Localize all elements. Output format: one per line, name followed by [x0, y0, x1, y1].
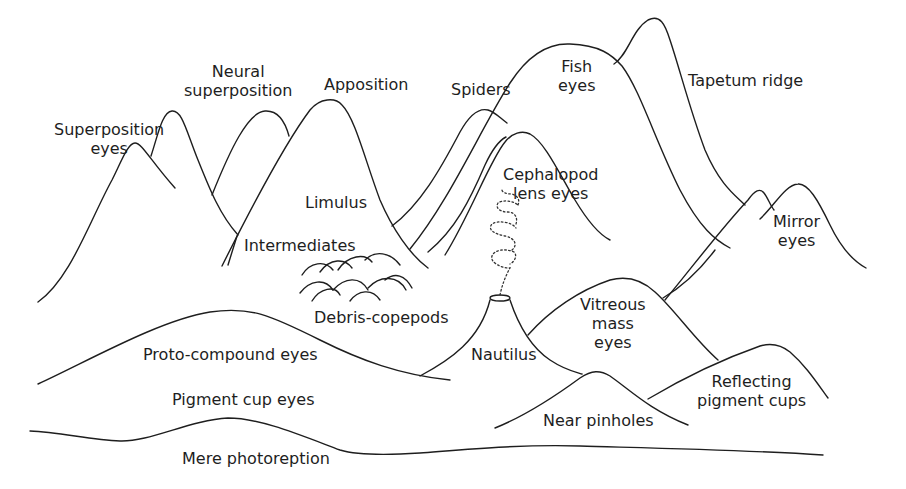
label-reflecting-pigment-cups: Reflecting pigment cups [697, 372, 806, 410]
ridge-neural-superposition [212, 111, 289, 195]
label-limulus: Limulus [305, 193, 367, 212]
ridge-mirror-small [665, 190, 774, 300]
label-proto-compound-eyes: Proto-compound eyes [143, 345, 318, 364]
debris-copepods-arcs [300, 254, 412, 301]
label-mere-photoreption: Mere photoreption [182, 449, 330, 468]
label-pigment-cup-eyes: Pigment cup eyes [172, 390, 315, 409]
ridge-superposition [38, 143, 175, 302]
label-apposition: Apposition [324, 75, 408, 94]
label-superposition-eyes: Superposition eyes [54, 120, 164, 158]
ridge-mirror-to-vitreous [663, 250, 715, 298]
label-mirror-eyes: Mirror eyes [773, 212, 820, 250]
label-intermediates: Intermediates [244, 236, 356, 255]
label-near-pinholes: Near pinholes [543, 411, 654, 430]
nautilus-spiral [490, 190, 518, 295]
ridge-pigment-cup [30, 418, 823, 455]
ridge-tapetum [614, 18, 745, 205]
eye-evolution-landscape: Superposition eyes Neural superposition … [0, 0, 906, 489]
label-cephalopod-lens-eyes: Cephalopod lens eyes [503, 165, 598, 203]
label-tapetum-ridge: Tapetum ridge [688, 71, 803, 90]
label-nautilus: Nautilus [471, 345, 537, 364]
ridge-cephalopod-inner [428, 137, 506, 252]
nautilus-crater [490, 295, 510, 301]
label-neural-superposition: Neural superposition [184, 62, 292, 100]
label-vitreous-mass-eyes: Vitreous mass eyes [580, 295, 646, 352]
label-fish-eyes: Fish eyes [558, 57, 596, 95]
label-debris-copepods: Debris-copepods [314, 308, 448, 327]
label-spiders: Spiders [451, 80, 511, 99]
